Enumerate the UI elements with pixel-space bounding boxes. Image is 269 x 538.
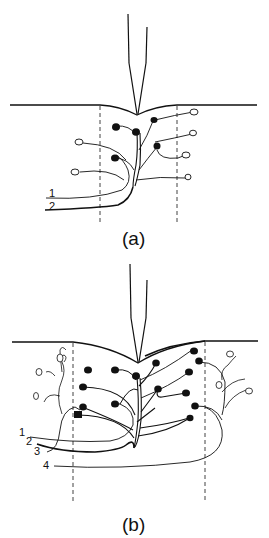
curve-label-b-1: 1: [19, 426, 25, 438]
curve-label-b-2: 2: [26, 435, 32, 447]
panel-a: [10, 14, 257, 222]
open-loops: [71, 109, 198, 180]
curve-label-a-1: 1: [49, 187, 55, 199]
panel-caption-a: (a): [122, 228, 145, 249]
dislocation-curve-1: [46, 155, 129, 198]
curve-label-b-3: 3: [34, 445, 40, 457]
surface-line: [10, 105, 257, 115]
indenter-icon: [128, 14, 147, 114]
trunk: [134, 377, 138, 448]
curve-label-b-4: 4: [43, 459, 49, 471]
indenter-icon: [130, 264, 147, 362]
filled-loops: [111, 117, 161, 162]
diagram: 1 2 (a): [0, 0, 269, 538]
panel-caption-b: (b): [122, 514, 145, 535]
curve-label-a-2: 2: [49, 200, 55, 212]
